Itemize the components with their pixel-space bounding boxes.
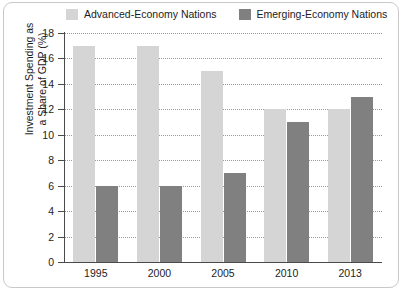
dark-gray-swatch-icon [239,9,251,20]
bar-2005-advanced [201,71,223,262]
x-axis-label-2013: 2013 [318,268,382,279]
legend-label-emerging-economy: Emerging-Economy Nations [257,8,388,20]
x-axis-label-2000: 2000 [128,268,192,279]
legend-item-emerging-economy: Emerging-Economy Nations [239,8,388,20]
y-tick-label-2: 2 [28,232,54,242]
bar-group-2010 [264,33,309,262]
bar-2013-emerging [351,97,373,262]
legend-item-advanced-economy: Advanced-Economy Nations [66,8,217,20]
x-axis-label-1995: 1995 [64,268,128,279]
bar-group-2005 [201,33,246,262]
chart-legend: Advanced-Economy Nations Emerging-Econom… [66,7,387,21]
bar-2000-emerging [160,186,182,262]
bar-group-2013 [328,33,373,262]
y-tick-label-0: 0 [28,257,54,267]
bar-2000-advanced [137,46,159,262]
bar-2013-advanced [328,109,350,262]
y-tick-label-16: 16 [28,53,54,63]
bar-2010-emerging [287,122,309,262]
y-tick-label-4: 4 [28,206,54,216]
y-tick-label-8: 8 [28,155,54,165]
bar-group-1995 [73,33,118,262]
y-tick-label-10: 10 [28,130,54,140]
y-tick-label-14: 14 [28,79,54,89]
x-axis-line [64,262,382,263]
bar-1995-emerging [96,186,118,262]
bar-2010-advanced [264,109,286,262]
x-axis-label-2010: 2010 [255,268,319,279]
y-tick-label-18: 18 [28,28,54,38]
plot-area [64,33,382,262]
y-tick-label-6: 6 [28,181,54,191]
light-gray-swatch-icon [66,9,78,20]
bar-chart-figure: Advanced-Economy Nations Emerging-Econom… [0,0,404,294]
bar-group-2000 [137,33,182,262]
x-axis-label-2005: 2005 [191,268,255,279]
y-tick-label-12: 12 [28,104,54,114]
legend-label-advanced-economy: Advanced-Economy Nations [84,8,217,20]
bar-2005-emerging [224,173,246,262]
bar-1995-advanced [73,46,95,262]
